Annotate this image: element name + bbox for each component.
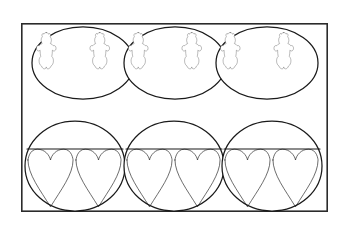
circle-hearts-3 (222, 121, 322, 211)
oval-bears-1 (32, 27, 134, 99)
oval-bears-2 (124, 27, 226, 99)
oval-bears-3 (216, 27, 318, 99)
circle-outline (124, 121, 224, 211)
circle-hearts-1 (25, 121, 125, 211)
circle-hearts-2 (124, 121, 224, 211)
circle-outline (222, 121, 322, 211)
figure-root: Cookie cutter shapes layout Bordered rec… (0, 0, 347, 230)
shapes-canvas (0, 0, 347, 230)
circle-outline (25, 121, 125, 211)
